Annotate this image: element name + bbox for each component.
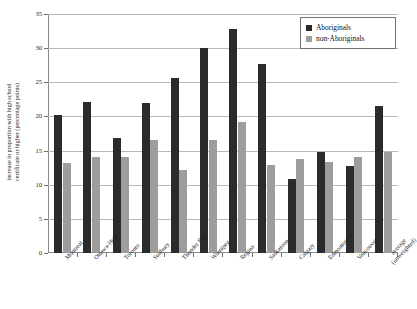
bar-aboriginals <box>229 29 237 253</box>
bar-aboriginals <box>258 64 266 253</box>
x-axis-tick-mark <box>252 253 253 257</box>
x-axis-tick-mark <box>164 253 165 257</box>
y-axis-tick-label: 0 <box>22 249 42 257</box>
x-axis-tick-mark <box>281 253 282 257</box>
legend-item-non-aboriginals: non-Aboriginals <box>306 33 390 44</box>
bar-aboriginals <box>171 78 179 253</box>
y-axis-tick-label: 10 <box>22 181 42 189</box>
bar-group <box>369 14 398 253</box>
y-axis-title-line-2: certificate or higher (percentage points… <box>13 83 21 181</box>
bar-group <box>252 14 281 253</box>
bar-group <box>165 14 194 253</box>
bar-group <box>223 14 252 253</box>
x-axis-tick-mark <box>193 253 194 257</box>
bar-group <box>311 14 340 253</box>
legend-swatch-icon-aboriginals <box>306 25 312 31</box>
bar-group <box>281 14 310 253</box>
bar-aboriginals <box>200 48 208 253</box>
y-axis-tick-mark <box>44 253 48 254</box>
y-axis-tick-label: 30 <box>22 44 42 52</box>
bar-aboriginals <box>54 115 62 253</box>
y-axis-tick-label: 20 <box>22 112 42 120</box>
x-axis-tick-mark <box>77 253 78 257</box>
bar-aboriginals <box>83 102 91 253</box>
x-axis-tick-mark <box>222 253 223 257</box>
x-axis-tick-mark <box>135 253 136 257</box>
y-axis-title-line-1: increase in proportion with high school <box>5 83 13 180</box>
bar-group <box>136 14 165 253</box>
bar-non-aboriginals <box>179 170 187 253</box>
bar-non-aboriginals <box>325 162 333 253</box>
y-axis-tick-label: 15 <box>22 147 42 155</box>
bar-non-aboriginals <box>238 122 246 253</box>
x-axis-tick-mark <box>339 253 340 257</box>
bar-group <box>340 14 369 253</box>
bar-aboriginals <box>317 152 325 253</box>
legend-item-aboriginals: Aboriginals <box>306 22 390 33</box>
legend-label-aboriginals: Aboriginals <box>316 23 351 32</box>
y-axis-title: increase in proportion with high school … <box>2 17 24 247</box>
y-axis-tick-label: 25 <box>22 78 42 86</box>
bar-group <box>48 14 77 253</box>
y-axis-tick-label: 35 <box>22 10 42 18</box>
bars-layer <box>48 14 398 253</box>
bar-group <box>106 14 135 253</box>
bar-non-aboriginals <box>384 152 392 253</box>
plot-area: 05101520253035 <box>48 14 398 253</box>
bar-non-aboriginals <box>296 159 304 253</box>
x-axis-tick-mark <box>368 253 369 257</box>
legend: Aboriginals non-Aboriginals <box>300 17 396 49</box>
bar-non-aboriginals <box>63 163 71 253</box>
bar-non-aboriginals <box>209 140 217 253</box>
bar-aboriginals <box>142 103 150 253</box>
y-axis-tick-label: 5 <box>22 215 42 223</box>
x-axis-tick-mark <box>310 253 311 257</box>
bar-aboriginals <box>375 106 383 253</box>
x-axis-tick-mark <box>106 253 107 257</box>
bar-non-aboriginals <box>92 157 100 253</box>
bar-non-aboriginals <box>267 165 275 253</box>
bar-non-aboriginals <box>121 157 129 253</box>
bar-non-aboriginals <box>354 157 362 253</box>
bar-group <box>77 14 106 253</box>
bar-group <box>194 14 223 253</box>
legend-label-non-aboriginals: non-Aboriginals <box>316 34 364 43</box>
legend-swatch-icon-non-aboriginals <box>306 36 312 42</box>
bar-non-aboriginals <box>150 140 158 253</box>
